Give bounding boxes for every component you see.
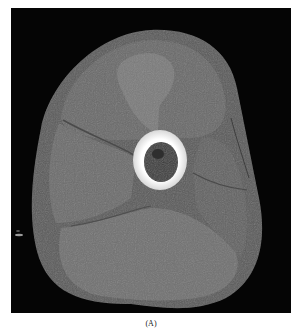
figure-caption: (A) — [0, 319, 302, 328]
ct-scan-image — [11, 8, 291, 313]
artifact-mark — [15, 234, 23, 236]
femur-marrow — [144, 142, 178, 182]
ct-scan-drawing — [11, 8, 291, 313]
